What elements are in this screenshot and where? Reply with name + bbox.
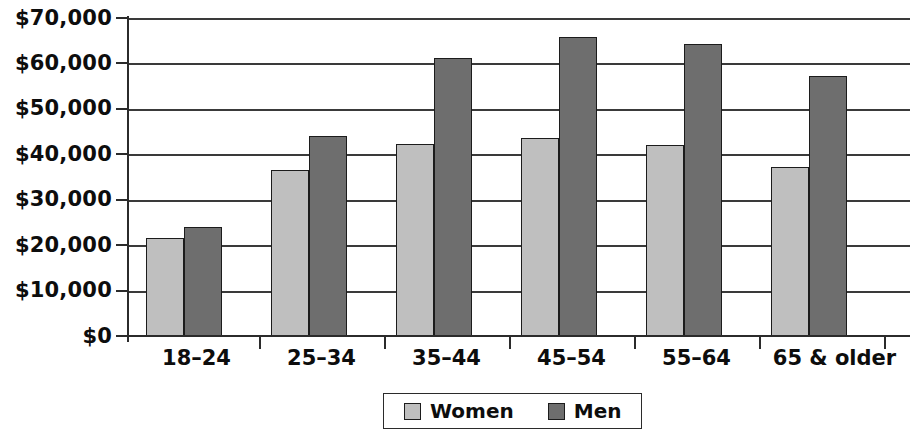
y-tick-label: $70,000 [15, 8, 112, 29]
y-tick-label: $10,000 [15, 280, 112, 301]
y-axis-labels: $70,000 $60,000 $50,000 $40,000 $30,000 … [0, 0, 112, 439]
x-tick-label-25-34: 25–34 [259, 348, 384, 369]
y-tick-label: $50,000 [15, 98, 112, 119]
x-tick-label-18-24: 18–24 [134, 348, 259, 369]
y-tick-label: $60,000 [15, 53, 112, 74]
x-tick-label-55-64: 55–64 [634, 348, 759, 369]
bar-chart: $70,000 $60,000 $50,000 $40,000 $30,000 … [0, 0, 922, 439]
gridline [129, 154, 910, 156]
bar-women-45-54 [521, 138, 559, 336]
legend-item-men: Men [548, 401, 622, 421]
chart-legend: Women Men [383, 393, 642, 429]
bar-men-35-44 [434, 58, 472, 336]
bar-women-25-34 [271, 170, 309, 336]
plot-area [129, 18, 910, 336]
y-tick-label: $30,000 [15, 189, 112, 210]
gridline [129, 18, 910, 20]
legend-label-men: Men [574, 401, 622, 421]
gridline [129, 109, 910, 111]
bar-men-65-older [809, 76, 847, 336]
legend-swatch-women-icon [404, 403, 421, 420]
bar-women-35-44 [396, 144, 434, 336]
legend-item-women: Women [404, 401, 514, 421]
x-tick-label-35-44: 35–44 [384, 348, 509, 369]
x-tick-label-45-54: 45–54 [509, 348, 634, 369]
bar-men-55-64 [684, 44, 722, 336]
legend-swatch-men-icon [548, 403, 565, 420]
x-axis-line [116, 335, 910, 337]
bar-men-25-34 [309, 136, 347, 336]
y-tick-label: $20,000 [15, 235, 112, 256]
bar-women-18-24 [146, 238, 184, 336]
x-tick-label-65-older: 65 & older [759, 348, 910, 369]
bar-women-55-64 [646, 145, 684, 336]
legend-label-women: Women [430, 401, 514, 421]
y-tick-label: $0 [82, 326, 112, 347]
bar-men-18-24 [184, 227, 222, 336]
y-axis-line [127, 16, 129, 342]
y-tick-label: $40,000 [15, 144, 112, 165]
bar-men-45-54 [559, 37, 597, 336]
gridline [129, 63, 910, 65]
bar-women-65-older [771, 167, 809, 336]
